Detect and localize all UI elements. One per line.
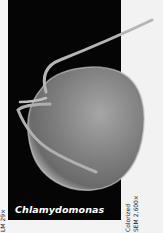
lm-magnification-caption: LM 29× (0, 209, 6, 232)
sem-magnification-caption: SEM 2,600× (132, 195, 139, 232)
organism-label: Chlamydomonas (15, 204, 104, 215)
colorized-caption: Colorized (124, 204, 131, 232)
